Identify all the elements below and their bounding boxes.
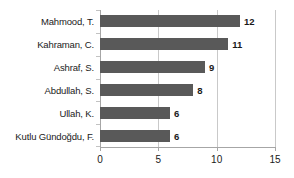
bar [100, 61, 205, 73]
category-label: Ashraf, S. [54, 62, 94, 73]
x-axis-tick [100, 147, 101, 151]
x-axis-tick-label: 15 [269, 154, 280, 165]
bar-row: Ashraf, S.9 [100, 56, 275, 79]
bar [100, 15, 240, 27]
x-axis-tick-label: 10 [211, 154, 222, 165]
bar-row: Kahraman, C.11 [100, 33, 275, 56]
bar-value-label: 8 [197, 84, 202, 95]
x-axis-tick-label: 5 [156, 154, 162, 165]
category-label: Kahraman, C. [37, 39, 94, 50]
bar [100, 107, 170, 119]
bar-value-label: 6 [174, 130, 179, 141]
x-axis-tick [158, 147, 159, 151]
category-label: Ullah, K. [59, 107, 94, 118]
bar [100, 130, 170, 142]
x-axis-tick [217, 147, 218, 151]
y-axis-tick [96, 56, 100, 57]
y-axis-tick [96, 33, 100, 34]
bar-value-label: 9 [209, 62, 214, 73]
category-label: Mahmood, T. [41, 16, 94, 27]
y-axis-tick [96, 10, 100, 11]
category-label: Kutlu Gündoğdu, F. [15, 130, 94, 141]
x-axis-line [100, 147, 276, 148]
x-axis-tick [275, 147, 276, 151]
y-axis-tick [96, 124, 100, 125]
bar [100, 84, 193, 96]
bar-row: Abdullah, S.8 [100, 79, 275, 102]
plot-area: Mahmood, T.12Kahraman, C.11Ashraf, S.9Ab… [100, 10, 275, 147]
bar-value-label: 6 [174, 107, 179, 118]
bar-chart: Mahmood, T.12Kahraman, C.11Ashraf, S.9Ab… [0, 0, 294, 178]
bar-row: Ullah, K.6 [100, 101, 275, 124]
x-axis-tick-label: 0 [97, 154, 103, 165]
bar-value-label: 11 [232, 39, 242, 50]
gridline-x-15 [275, 10, 276, 147]
bar-value-label: 12 [244, 16, 255, 27]
category-label: Abdullah, S. [45, 84, 94, 95]
y-axis-tick [96, 79, 100, 80]
bar-row: Mahmood, T.12 [100, 10, 275, 33]
bar [100, 38, 228, 50]
y-axis-tick [96, 101, 100, 102]
bar-row: Kutlu Gündoğdu, F.6 [100, 124, 275, 147]
